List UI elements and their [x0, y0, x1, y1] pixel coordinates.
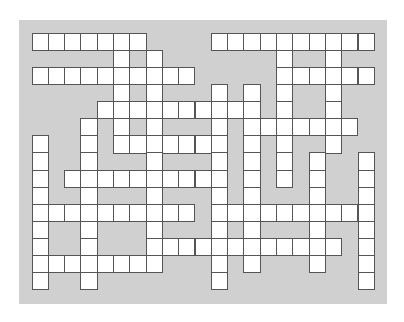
crossword-cell[interactable]	[227, 101, 244, 119]
crossword-cell[interactable]	[113, 170, 130, 188]
crossword-cell[interactable]	[243, 221, 260, 239]
crossword-cell[interactable]	[309, 187, 326, 205]
crossword-cell[interactable]	[260, 118, 277, 136]
crossword-cell[interactable]	[32, 135, 49, 153]
crossword-cell[interactable]	[243, 118, 260, 136]
crossword-cell[interactable]	[129, 67, 146, 85]
crossword-cell[interactable]	[146, 204, 163, 222]
crossword-cell[interactable]	[129, 135, 146, 153]
crossword-cell[interactable]	[178, 67, 195, 85]
crossword-cell[interactable]	[211, 170, 228, 188]
crossword-cell[interactable]	[80, 118, 97, 136]
crossword-cell[interactable]	[243, 255, 260, 273]
crossword-cell[interactable]	[80, 272, 97, 290]
crossword-cell[interactable]	[129, 204, 146, 222]
crossword-cell[interactable]	[32, 272, 49, 290]
crossword-cell[interactable]	[178, 238, 195, 256]
crossword-cell[interactable]	[195, 135, 212, 153]
crossword-cell[interactable]	[178, 101, 195, 119]
crossword-cell[interactable]	[211, 238, 228, 256]
crossword-cell[interactable]	[48, 255, 65, 273]
crossword-cell[interactable]	[325, 84, 342, 102]
crossword-cell[interactable]	[97, 255, 114, 273]
crossword-cell[interactable]	[309, 221, 326, 239]
crossword-cell[interactable]	[146, 238, 163, 256]
crossword-cell[interactable]	[358, 238, 375, 256]
crossword-cell[interactable]	[146, 101, 163, 119]
crossword-cell[interactable]	[162, 170, 179, 188]
crossword-cell[interactable]	[276, 152, 293, 170]
crossword-cell[interactable]	[113, 118, 130, 136]
crossword-cell[interactable]	[80, 187, 97, 205]
crossword-cell[interactable]	[146, 67, 163, 85]
crossword-cell[interactable]	[260, 33, 277, 51]
crossword-cell[interactable]	[64, 170, 81, 188]
crossword-cell[interactable]	[292, 204, 309, 222]
crossword-cell[interactable]	[292, 67, 309, 85]
crossword-cell[interactable]	[113, 255, 130, 273]
crossword-cell[interactable]	[32, 221, 49, 239]
crossword-cell[interactable]	[178, 135, 195, 153]
crossword-cell[interactable]	[276, 238, 293, 256]
crossword-cell[interactable]	[325, 135, 342, 153]
crossword-cell[interactable]	[162, 238, 179, 256]
crossword-cell[interactable]	[243, 84, 260, 102]
crossword-cell[interactable]	[80, 221, 97, 239]
crossword-cell[interactable]	[64, 255, 81, 273]
crossword-cell[interactable]	[260, 238, 277, 256]
crossword-cell[interactable]	[64, 67, 81, 85]
crossword-cell[interactable]	[309, 204, 326, 222]
crossword-cell[interactable]	[146, 118, 163, 136]
crossword-cell[interactable]	[309, 67, 326, 85]
crossword-cell[interactable]	[243, 204, 260, 222]
crossword-cell[interactable]	[146, 152, 163, 170]
crossword-cell[interactable]	[309, 33, 326, 51]
crossword-cell[interactable]	[113, 67, 130, 85]
crossword-cell[interactable]	[32, 204, 49, 222]
crossword-cell[interactable]	[129, 170, 146, 188]
crossword-cell[interactable]	[80, 33, 97, 51]
crossword-cell[interactable]	[292, 238, 309, 256]
crossword-cell[interactable]	[80, 238, 97, 256]
crossword-cell[interactable]	[341, 67, 358, 85]
crossword-cell[interactable]	[341, 33, 358, 51]
crossword-cell[interactable]	[358, 187, 375, 205]
crossword-cell[interactable]	[146, 84, 163, 102]
crossword-cell[interactable]	[162, 67, 179, 85]
crossword-cell[interactable]	[80, 170, 97, 188]
crossword-cell[interactable]	[276, 84, 293, 102]
crossword-cell[interactable]	[260, 204, 277, 222]
crossword-cell[interactable]	[276, 67, 293, 85]
crossword-cell[interactable]	[146, 187, 163, 205]
crossword-cell[interactable]	[146, 170, 163, 188]
crossword-cell[interactable]	[80, 255, 97, 273]
crossword-cell[interactable]	[48, 33, 65, 51]
crossword-cell[interactable]	[309, 255, 326, 273]
crossword-cell[interactable]	[325, 33, 342, 51]
crossword-cell[interactable]	[80, 152, 97, 170]
crossword-cell[interactable]	[243, 101, 260, 119]
crossword-cell[interactable]	[97, 170, 114, 188]
crossword-cell[interactable]	[162, 135, 179, 153]
crossword-cell[interactable]	[309, 152, 326, 170]
crossword-cell[interactable]	[32, 170, 49, 188]
crossword-cell[interactable]	[80, 204, 97, 222]
crossword-cell[interactable]	[309, 238, 326, 256]
crossword-cell[interactable]	[276, 33, 293, 51]
crossword-cell[interactable]	[211, 272, 228, 290]
crossword-cell[interactable]	[243, 33, 260, 51]
crossword-cell[interactable]	[32, 238, 49, 256]
crossword-cell[interactable]	[211, 118, 228, 136]
crossword-cell[interactable]	[113, 204, 130, 222]
crossword-cell[interactable]	[358, 67, 375, 85]
crossword-cell[interactable]	[80, 135, 97, 153]
crossword-cell[interactable]	[162, 101, 179, 119]
crossword-cell[interactable]	[32, 67, 49, 85]
crossword-cell[interactable]	[358, 204, 375, 222]
crossword-cell[interactable]	[243, 135, 260, 153]
crossword-cell[interactable]	[358, 170, 375, 188]
crossword-cell[interactable]	[309, 170, 326, 188]
crossword-cell[interactable]	[292, 33, 309, 51]
crossword-cell[interactable]	[32, 152, 49, 170]
crossword-cell[interactable]	[341, 118, 358, 136]
